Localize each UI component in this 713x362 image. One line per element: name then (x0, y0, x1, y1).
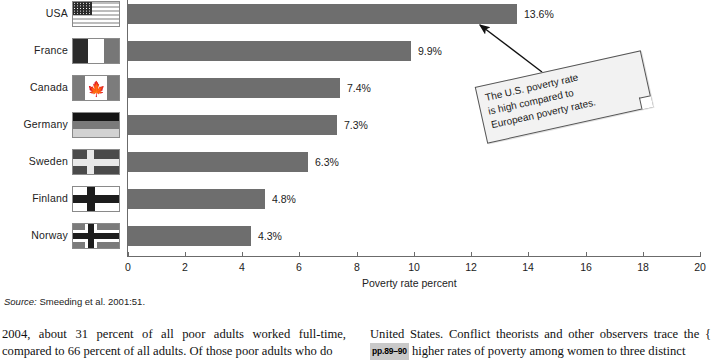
annotation-arrow-icon (470, 18, 550, 76)
category-label-france: France (8, 44, 68, 56)
usa-flag (72, 1, 120, 27)
bar-france (128, 41, 411, 61)
bar-norway (128, 226, 251, 246)
x-tick-18 (643, 252, 644, 256)
x-tick-label-0: 0 (113, 261, 143, 273)
source-label: Source: (4, 296, 37, 307)
x-tick-12 (471, 252, 472, 256)
body-text-right-before: United States. Conflict theorists and ot… (370, 327, 699, 341)
bar-value-canada: 7.4% (347, 82, 371, 94)
source-citation: Smeeding et al. 2001:51. (39, 296, 145, 307)
germany-flag (72, 112, 120, 138)
x-tick-label-20: 20 (685, 261, 713, 273)
x-tick-label-18: 18 (628, 261, 658, 273)
source-note: Source: Smeeding et al. 2001:51. (4, 296, 145, 307)
category-label-norway: Norway (8, 229, 68, 241)
category-label-sweden: Sweden (8, 155, 68, 167)
callout-fold-corner (639, 95, 653, 109)
page-ref-brace: { (705, 327, 711, 341)
body-text-right-after: higher rates of poverty among women to t… (412, 344, 686, 358)
x-tick-6 (299, 252, 300, 256)
body-text-left-column: 2004, about 31 percent of all poor adult… (2, 326, 346, 360)
y-axis-line (127, 0, 128, 257)
x-tick-16 (586, 252, 587, 256)
bar-value-germany: 7.3% (344, 119, 368, 131)
x-tick-2 (185, 252, 186, 256)
bar-usa (128, 4, 517, 24)
x-tick-8 (357, 252, 358, 256)
sweden-flag (72, 149, 120, 175)
category-label-finland: Finland (8, 192, 68, 204)
figure-page: USA France Canada Germany Sweden Finland… (0, 0, 713, 362)
x-tick-label-16: 16 (571, 261, 601, 273)
bar-value-norway: 4.3% (258, 230, 282, 242)
norway-flag (72, 223, 120, 249)
x-tick-0 (128, 252, 129, 256)
x-tick-4 (242, 252, 243, 256)
category-label-germany: Germany (8, 118, 68, 130)
bar-finland (128, 189, 265, 209)
body-text-right-column: United States. Conflict theorists and ot… (370, 326, 711, 360)
bar-value-france: 9.9% (418, 45, 442, 57)
page-ref-badge[interactable]: pp.89–90 (370, 343, 409, 360)
x-tick-label-6: 6 (284, 261, 314, 273)
x-tick-label-10: 10 (399, 261, 429, 273)
bar-value-finland: 4.8% (272, 193, 296, 205)
category-label-canada: Canada (8, 81, 68, 93)
x-axis-line (128, 256, 701, 257)
x-tick-20 (700, 252, 701, 256)
x-tick-10 (414, 252, 415, 256)
x-tick-label-2: 2 (170, 261, 200, 273)
x-tick-label-14: 14 (513, 261, 543, 273)
x-tick-label-4: 4 (227, 261, 257, 273)
x-axis-title: Poverty rate percent (362, 277, 457, 289)
bar-chart: USA France Canada Germany Sweden Finland… (0, 0, 713, 300)
x-tick-label-12: 12 (456, 261, 486, 273)
x-tick-14 (528, 252, 529, 256)
france-flag (72, 38, 120, 64)
canada-flag: 🍁 (72, 75, 120, 101)
bar-sweden (128, 152, 308, 172)
bar-canada (128, 78, 340, 98)
finland-flag (72, 186, 120, 212)
bar-value-sweden: 6.3% (315, 156, 339, 168)
x-tick-label-8: 8 (342, 261, 372, 273)
category-label-usa: USA (8, 7, 68, 19)
bar-germany (128, 115, 337, 135)
